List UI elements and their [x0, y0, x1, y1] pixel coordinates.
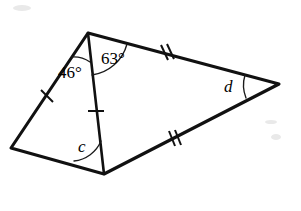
angle-label-63: 63° — [101, 50, 125, 67]
outer-quadrilateral — [11, 33, 279, 174]
angle-label-c: c — [78, 138, 86, 155]
geometry-figure: 46° 63° c d — [0, 0, 301, 211]
tick-double-upper-b — [167, 44, 174, 59]
angle-label-d: d — [224, 78, 233, 95]
arc-angle-d — [244, 75, 246, 98]
arc-angle-46 — [72, 57, 90, 62]
scanner-artifact-right-upper — [265, 120, 277, 124]
geometry-canvas — [0, 0, 301, 211]
angle-label-46: 46° — [58, 64, 82, 81]
scanner-artifact-topleft — [13, 5, 31, 11]
scanner-artifact-right-lower — [271, 134, 281, 140]
